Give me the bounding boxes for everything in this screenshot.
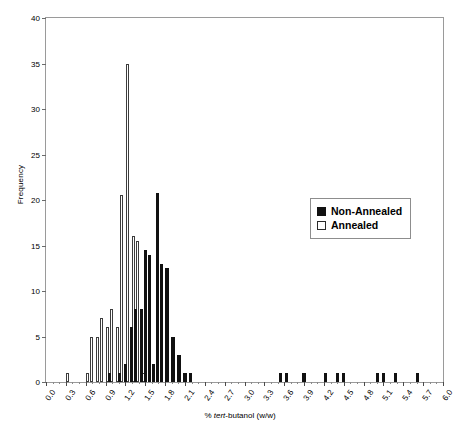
y-axis-tick-label: 15 xyxy=(31,241,40,250)
x-axis-tick-label: 6.0 xyxy=(441,388,455,402)
y-axis-tick-label: 10 xyxy=(31,287,40,296)
x-axis-tick-minor xyxy=(198,382,199,384)
x-axis-tick-major xyxy=(125,382,126,386)
bar-nonannealed xyxy=(134,309,137,382)
x-axis-tick-major xyxy=(264,382,265,386)
bar-nonannealed xyxy=(124,364,127,382)
legend-swatch-hollow-icon xyxy=(317,221,326,230)
legend: Non-Annealed Annealed xyxy=(310,198,411,239)
x-axis-tick-major xyxy=(66,382,67,386)
x-axis-tick-minor xyxy=(317,382,318,384)
y-axis-tick-label: 30 xyxy=(31,105,40,114)
legend-item-annealed: Annealed xyxy=(317,219,402,231)
bar-nonannealed xyxy=(144,250,147,382)
y-axis-tick xyxy=(42,18,46,19)
y-axis-tick-label: 5 xyxy=(36,332,40,341)
x-axis-tick-minor xyxy=(357,382,358,384)
x-axis-tick-minor xyxy=(92,382,93,384)
x-axis-title: % tert-butanol (w/w) xyxy=(140,411,340,420)
x-axis-tick-label: 3.9 xyxy=(302,388,316,402)
y-axis-tick xyxy=(42,246,46,247)
y-axis-tick xyxy=(42,291,46,292)
histogram-figure: Frequency % tert-butanol (w/w) 051015202… xyxy=(0,0,458,434)
x-axis-tick-major xyxy=(145,382,146,386)
bar-nonannealed xyxy=(324,373,327,382)
x-axis-tick-label: 1.2 xyxy=(123,388,137,402)
bar-nonannealed xyxy=(416,373,419,382)
x-axis-tick-label: 4.2 xyxy=(322,388,336,402)
x-axis-tick-minor xyxy=(211,382,212,384)
x-axis-tick-minor xyxy=(417,382,418,384)
x-axis-tick-minor xyxy=(178,382,179,384)
x-axis-tick-label: 0.3 xyxy=(63,388,77,402)
x-axis-tick-major xyxy=(86,382,87,386)
y-axis-tick xyxy=(42,64,46,65)
bar-nonannealed xyxy=(108,373,111,382)
x-axis-tick-minor xyxy=(337,382,338,384)
x-axis-tick-minor xyxy=(79,382,80,384)
bar-nonannealed xyxy=(285,373,288,382)
x-axis-tick-major xyxy=(106,382,107,386)
bar-nonannealed xyxy=(394,373,397,382)
x-axis-tick-major xyxy=(324,382,325,386)
y-axis-tick xyxy=(42,337,46,338)
x-axis-tick-label: 3.3 xyxy=(262,388,276,402)
bar-annealed xyxy=(120,195,123,382)
x-axis-tick-minor xyxy=(430,382,431,384)
x-axis-tick-minor xyxy=(278,382,279,384)
x-axis-tick-minor xyxy=(251,382,252,384)
x-axis-tick-minor xyxy=(311,382,312,384)
bar-nonannealed xyxy=(279,373,282,382)
x-axis-tick-major xyxy=(245,382,246,386)
bar-nonannealed xyxy=(189,373,192,382)
y-axis-tick xyxy=(42,200,46,201)
x-axis-tick-minor xyxy=(139,382,140,384)
x-axis-tick-major xyxy=(165,382,166,386)
bar-nonannealed xyxy=(376,373,379,382)
legend-label-non-annealed: Non-Annealed xyxy=(331,205,402,217)
x-axis-title-italic: tert xyxy=(214,411,226,420)
bar-annealed xyxy=(96,337,99,383)
x-axis-tick-major xyxy=(423,382,424,386)
x-axis-tick-major xyxy=(383,382,384,386)
y-axis-tick-label: 35 xyxy=(31,59,40,68)
x-axis-tick-minor xyxy=(59,382,60,384)
x-axis-tick-label: 1.5 xyxy=(143,388,157,402)
x-axis-tick-major xyxy=(403,382,404,386)
x-axis-tick-major xyxy=(304,382,305,386)
x-axis-tick-label: 5.4 xyxy=(401,388,415,402)
x-axis-tick-minor xyxy=(271,382,272,384)
x-axis-tick-label: 0.0 xyxy=(44,388,58,402)
x-axis-tick-minor xyxy=(132,382,133,384)
x-axis-tick-minor xyxy=(370,382,371,384)
bar-nonannealed xyxy=(152,364,155,382)
bar-nonannealed xyxy=(342,373,345,382)
x-axis-tick-minor xyxy=(152,382,153,384)
bar-nonannealed xyxy=(130,327,133,382)
x-axis-tick-label: 4.8 xyxy=(361,388,375,402)
bar-nonannealed xyxy=(177,355,180,382)
x-axis-tick-minor xyxy=(53,382,54,384)
bar-annealed xyxy=(86,373,89,382)
x-axis-tick-minor xyxy=(231,382,232,384)
x-axis-tick-label: 2.7 xyxy=(222,388,236,402)
bar-nonannealed xyxy=(156,193,159,382)
y-axis-tick xyxy=(42,109,46,110)
x-axis-tick-major xyxy=(225,382,226,386)
legend-label-annealed: Annealed xyxy=(331,219,378,231)
bar-annealed xyxy=(90,337,93,383)
x-axis-tick-major xyxy=(344,382,345,386)
bar-annealed xyxy=(126,64,129,383)
y-axis-tick-label: 20 xyxy=(31,196,40,205)
legend-swatch-filled-icon xyxy=(317,207,326,216)
x-axis-tick-minor xyxy=(410,382,411,384)
x-axis-tick-minor xyxy=(238,382,239,384)
x-axis-tick-major xyxy=(364,382,365,386)
x-axis-tick-major xyxy=(46,382,47,386)
y-axis-tick-label: 40 xyxy=(31,14,40,23)
x-axis-tick-label: 3.0 xyxy=(242,388,256,402)
y-axis-tick-label: 25 xyxy=(31,150,40,159)
bar-annealed xyxy=(66,373,69,382)
x-axis-tick-minor xyxy=(350,382,351,384)
x-axis-tick-minor xyxy=(436,382,437,384)
